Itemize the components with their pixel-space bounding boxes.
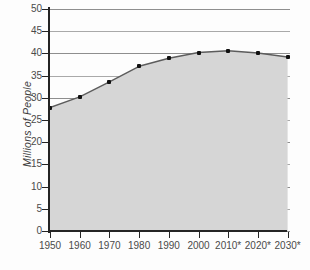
data-point-1990: [167, 56, 171, 60]
y-tick-text: 20: [16, 136, 42, 147]
x-tick-1960: [80, 232, 81, 238]
x-tick-2000: [199, 232, 200, 238]
y-tick-45: [42, 31, 49, 32]
y-tick-5: [42, 209, 49, 210]
y-tick-text: 15: [16, 158, 42, 169]
y-tick-text: 45: [16, 25, 42, 36]
y-tick-text: 40: [16, 47, 42, 58]
x-tick-2010: [228, 232, 229, 238]
y-tick-25: [42, 120, 49, 121]
y-tick-text: 0: [16, 225, 42, 236]
data-point-1980: [137, 64, 141, 68]
y-tick-text: 30: [16, 92, 42, 103]
x-tick-label-2030: 2030*: [271, 240, 305, 251]
y-tick-15: [42, 164, 49, 165]
y-tick-text: 35: [16, 70, 42, 81]
y-tick-30: [42, 98, 49, 99]
area-series: [50, 9, 290, 231]
data-point-1960: [78, 95, 82, 99]
data-point-1970: [107, 80, 111, 84]
y-tick-0: [42, 231, 49, 232]
y-tick-20: [42, 142, 49, 143]
plot-area: [50, 9, 290, 231]
x-tick-2030: [288, 232, 289, 238]
y-tick-text: 50: [16, 3, 42, 14]
data-point-2020: [256, 51, 260, 55]
x-tick-1980: [139, 232, 140, 238]
data-point-2030: [286, 55, 290, 59]
y-tick-40: [42, 53, 49, 54]
data-point-2000: [197, 51, 201, 55]
x-tick-1970: [109, 232, 110, 238]
data-point-2010: [226, 49, 230, 53]
y-tick-text: 10: [16, 181, 42, 192]
y-tick-text: 5: [16, 203, 42, 214]
x-tick-1950: [50, 232, 51, 238]
population-area-chart: Millions of People 05101520253035404550 …: [0, 0, 310, 270]
y-tick-text: 25: [16, 114, 42, 125]
y-tick-35: [42, 76, 49, 77]
y-tick-10: [42, 187, 49, 188]
x-tick-1990: [169, 232, 170, 238]
y-tick-50: [42, 9, 49, 10]
x-tick-2020: [258, 232, 259, 238]
x-axis-line: [48, 230, 287, 232]
